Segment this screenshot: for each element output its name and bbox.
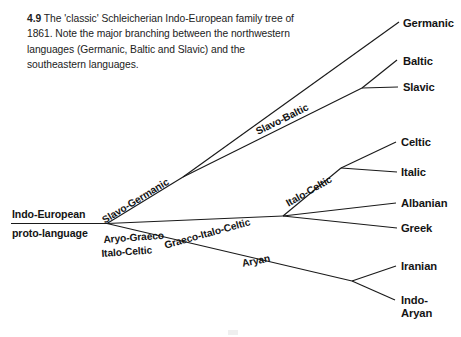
leaf-label-greek: Greek <box>401 222 432 236</box>
leaf-label-iranian: Iranian <box>401 260 437 274</box>
leaf-label-germanic: Germanic <box>403 17 454 31</box>
leaf-label-albanian: Albanian <box>401 197 447 211</box>
scan-artifact <box>228 330 238 335</box>
root-label-line2: proto-language <box>12 226 88 241</box>
leaf-label-indo-aryan-line1: Indo- <box>401 294 428 308</box>
leaf-label-italic: Italic <box>401 166 426 180</box>
leaf-label-slavic: Slavic <box>403 81 435 95</box>
branch-slavo-baltic <box>183 88 362 177</box>
leaf-label-indo-aryan-line2: Aryan <box>401 307 432 321</box>
branch-italic <box>341 168 397 172</box>
branch-germanic <box>183 22 399 177</box>
root-label-line1: Indo-European <box>12 207 85 222</box>
leaf-label-baltic: Baltic <box>403 55 433 69</box>
branch-indo-aryan <box>352 281 395 300</box>
branch-baltic <box>362 60 397 88</box>
figure-container: 4.9 The 'classic' Schleicherian Indo-Eur… <box>0 0 461 337</box>
branch-slavic <box>362 87 398 88</box>
branch-celtic <box>341 142 396 168</box>
branch-greek <box>283 216 397 228</box>
branch-albanian <box>283 203 396 216</box>
branch-iranian <box>352 266 396 281</box>
family-tree-lines <box>0 0 461 337</box>
branch-graeco-italo-celtic <box>107 216 283 224</box>
leaf-label-celtic: Celtic <box>401 136 431 150</box>
